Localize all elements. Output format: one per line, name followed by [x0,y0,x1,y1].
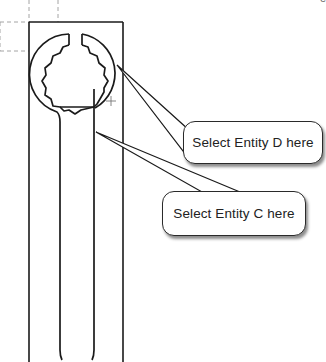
socket-profile [42,45,108,114]
callout-entity-c-label: Select Entity C here [173,206,294,221]
callout-entity-d-label: Select Entity D here [192,135,313,150]
wrench-outline[interactable] [29,34,114,360]
entity-c-line [92,89,94,360]
sketch-canvas [0,0,326,362]
outer-rectangle[interactable] [29,22,123,362]
callout-entity-c: Select Entity C here [162,191,306,236]
ring-outer-left [29,34,69,360]
entity-d-arc [82,34,115,108]
callout-entity-d: Select Entity D here [183,121,323,164]
